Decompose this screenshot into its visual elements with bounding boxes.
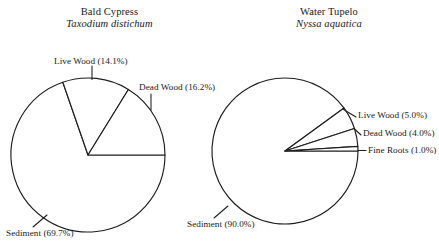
leader-line-sediment-left bbox=[33, 215, 47, 227]
pie-label-live-wood-left: Live Wood (14.1%) bbox=[54, 56, 128, 66]
pie-label-sediment-left: Sediment (69.7%) bbox=[6, 228, 74, 238]
pie-label-dead-wood-right: Dead Wood (4.0%) bbox=[363, 128, 435, 138]
pie-label-dead-wood-left: Dead Wood (16.2%) bbox=[139, 82, 215, 92]
pie-label-sediment-right: Sediment (90.0%) bbox=[187, 219, 255, 229]
chart-panel-water-tupelo: Water Tupelo Nyssa aquatica Live Wood (5… bbox=[219, 0, 439, 248]
chart-panel-bald-cypress: Bald Cypress Taxodium distichum Live Woo… bbox=[0, 0, 219, 248]
pie-chart-right bbox=[219, 0, 439, 248]
pie-label-live-wood-right: Live Wood (5.0%) bbox=[358, 110, 427, 120]
pie-chart-left bbox=[0, 0, 219, 248]
pie-chart-figure: Bald Cypress Taxodium distichum Live Woo… bbox=[0, 0, 439, 248]
pie-label-fine-roots-right: Fine Roots (1.0%) bbox=[368, 145, 436, 155]
